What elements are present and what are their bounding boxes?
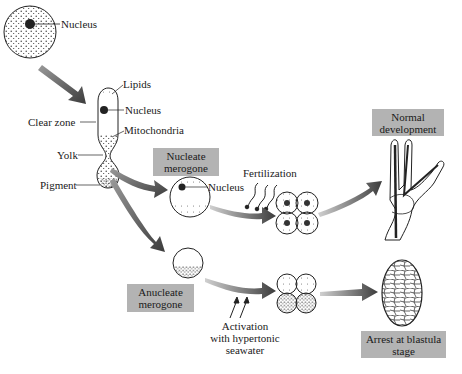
label-clear-zone: Clear zone [28, 116, 75, 128]
box-anucleate-merogone: Anucleate merogone [127, 284, 194, 312]
label-activation: Activation with hypertonic seawater [205, 320, 285, 356]
pluteus-larva [385, 140, 444, 240]
egg-nucleus-icon [25, 19, 35, 29]
label-fertilization: Fertilization [243, 167, 297, 179]
arrow-to-activated-embryo [205, 278, 276, 299]
arrested-blastula [382, 260, 422, 326]
arrow-to-blastula [320, 283, 378, 301]
label-nucleus-merogone: Nucleus [208, 181, 244, 193]
activation-arrows [230, 297, 249, 318]
sperm-icons [245, 183, 277, 211]
label-lipids: Lipids [123, 78, 151, 90]
label-nucleus-centrifuged: Nucleus [125, 104, 161, 116]
box-arrest-blastula: Arrest at blastula stage [361, 331, 446, 358]
centrifuge-arrow [38, 65, 86, 104]
fertilized-four-cell [276, 192, 318, 234]
label-yolk: Yolk [57, 149, 78, 161]
box-nucleate-merogone: Nucleate merogone [153, 148, 219, 176]
nucleate-merogone [170, 177, 210, 217]
arrow-to-normal-development [318, 181, 382, 217]
activated-four-cell [277, 274, 316, 313]
box-normal-development: Normal development [372, 109, 444, 136]
anucleate-merogone [173, 248, 203, 278]
label-nucleus-egg: Nucleus [61, 18, 97, 30]
label-pigment: Pigment [40, 179, 77, 191]
centrifuged-nucleus-icon [100, 106, 108, 114]
whole-egg [4, 6, 60, 58]
label-mitochondria: Mitochondria [124, 124, 184, 136]
